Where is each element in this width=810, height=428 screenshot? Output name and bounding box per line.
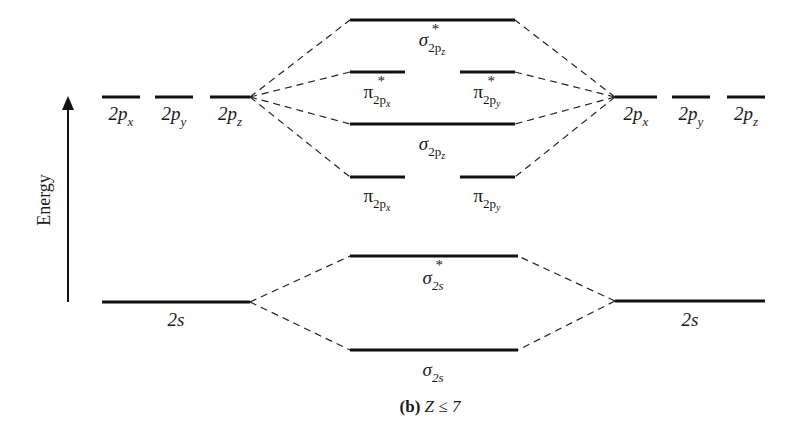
mo-label-sigma-2pz: σ2pz — [419, 134, 445, 161]
mo-label-pi-2py: π2py — [473, 186, 500, 213]
atomic-orbital-label: 2px — [624, 104, 649, 128]
atomic-orbital-label: 2pz — [734, 104, 758, 128]
energy-axis-label: Energy — [34, 174, 55, 226]
atomic-orbital-label: 2py — [162, 104, 187, 128]
atomic-orbital-label: 2s — [168, 310, 185, 329]
mo-label-pi-star-2px: π2px* — [363, 82, 390, 109]
mo-label-sigma-2s: σ2s — [423, 360, 444, 384]
figure-caption: (b) Z ≤ 7 — [400, 397, 461, 417]
atomic-orbital-label: 2s — [682, 310, 699, 329]
mo-label-pi-2px: π2px — [363, 186, 390, 213]
mo-diagram-lines — [0, 0, 810, 428]
atomic-orbital-label: 2px — [109, 104, 134, 128]
mo-label-pi-star-2py: π2py* — [473, 82, 500, 109]
atomic-orbital-label: 2pz — [218, 104, 242, 128]
mo-label-sigma-star-2pz: σ2pz* — [419, 30, 445, 57]
atomic-orbital-label: 2py — [679, 104, 704, 128]
mo-label-sigma-star-2s: σ2s* — [423, 268, 444, 292]
